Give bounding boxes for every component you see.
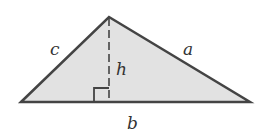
base-b-label: b [127,113,138,133]
triangle-shape [21,17,250,102]
diagram-container: c a h b [0,0,266,133]
side-a-label: a [183,39,193,59]
triangle-diagram: c a h b [0,0,266,133]
height-h-label: h [116,59,127,79]
side-c-label: c [50,39,60,59]
